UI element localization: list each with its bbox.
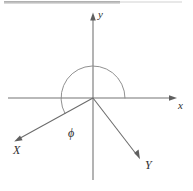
y-axis-arrowhead [90, 13, 96, 21]
rotated-X-arrowhead [14, 136, 22, 142]
rotated-Y-axis-label: Y [145, 159, 152, 171]
x-axis-arrowhead [169, 95, 177, 101]
x-axis-label: x [178, 100, 183, 111]
rotated-X-ray [19, 98, 94, 139]
rotated-Y-arrowhead [134, 150, 140, 160]
rotated-X-axis-label: X [13, 144, 20, 156]
y-axis-label: y [98, 9, 103, 20]
figure-canvas [0, 0, 193, 191]
angle-phi-label: ϕ [68, 127, 74, 139]
coordinate-rotation-figure: y x X Y ϕ [0, 0, 193, 191]
rotated-Y-ray [93, 98, 137, 155]
